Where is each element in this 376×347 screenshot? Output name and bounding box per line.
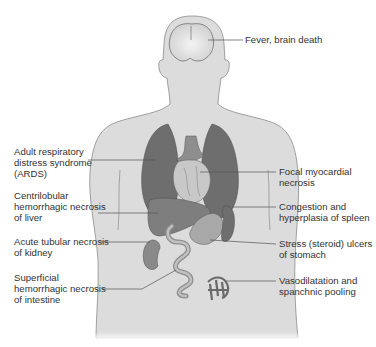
kidney bbox=[143, 240, 160, 269]
label-kidney: Acute tubular necrosis of kidney bbox=[14, 236, 109, 258]
label-liver: Centrilobular hemorrhagic necrosis of li… bbox=[14, 190, 106, 224]
label-heart: Focal myocardial necrosis bbox=[279, 166, 352, 188]
label-brain: Fever, brain death bbox=[245, 34, 322, 45]
label-stomach: Stress (steroid) ulcers of stomach bbox=[279, 238, 372, 260]
brain bbox=[169, 24, 213, 61]
label-intestine: Superficial hemorrhagic necrosis of inte… bbox=[14, 272, 106, 306]
label-lungs: Adult respiratory distress syndrome (ARD… bbox=[14, 146, 92, 180]
label-spleen: Congestion and hyperplasia of spleen bbox=[279, 201, 370, 223]
label-vessels: Vasodilatation and spanchnic pooling bbox=[279, 275, 357, 297]
